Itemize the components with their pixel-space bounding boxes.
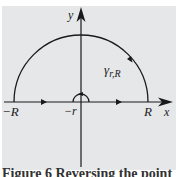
R-label: R bbox=[143, 104, 152, 119]
neg-r-label: −r bbox=[64, 104, 77, 118]
figure-caption: Figure 6 Reversing the point bbox=[2, 167, 172, 177]
neg-R-label: −R bbox=[2, 104, 19, 119]
y-axis-label: y bbox=[67, 8, 74, 22]
direction-arrow-left-segment-icon bbox=[41, 99, 47, 105]
direction-arrow-right-segment-icon bbox=[116, 99, 122, 105]
contour-label: γr,R bbox=[104, 62, 121, 79]
contour-diagram: y x −R −r R γr,R bbox=[0, 0, 176, 177]
x-axis-label: x bbox=[163, 105, 170, 119]
direction-arrow-arc-icon bbox=[127, 56, 133, 63]
